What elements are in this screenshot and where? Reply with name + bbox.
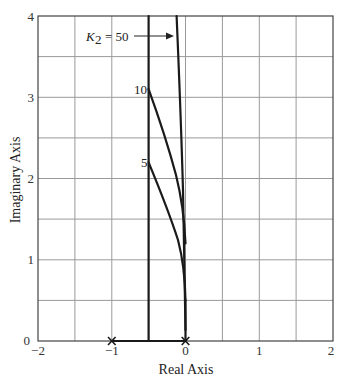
x-tick-2: 2 bbox=[328, 343, 335, 358]
y-tick-labels: 0 1 2 3 4 bbox=[24, 9, 35, 348]
label-k2-10: 10 bbox=[134, 82, 147, 97]
y-tick-0: 0 bbox=[24, 333, 31, 348]
y-tick-1: 1 bbox=[28, 252, 35, 267]
y-tick-4: 4 bbox=[28, 9, 35, 24]
y-tick-2: 2 bbox=[28, 171, 35, 186]
y-axis-label: Imaginary Axis bbox=[8, 137, 23, 224]
k-subscript: 2 bbox=[95, 32, 102, 47]
locus-k2-5 bbox=[149, 162, 186, 300]
x-tick-labels: −2 −1 0 1 2 bbox=[31, 343, 334, 358]
arrow-head-icon bbox=[166, 33, 174, 40]
annotation-k2-50: K 2 = 50 bbox=[85, 29, 174, 47]
x-tick-0: 0 bbox=[182, 343, 189, 358]
locus-k2-50 bbox=[177, 16, 186, 330]
label-k2-5: 5 bbox=[141, 155, 148, 170]
x-tick-neg1: −1 bbox=[105, 343, 119, 358]
x-axis-label: Real Axis bbox=[159, 362, 214, 377]
k-equals-50: = 50 bbox=[105, 29, 129, 44]
x-tick-neg2: −2 bbox=[31, 343, 45, 358]
x-tick-1: 1 bbox=[256, 343, 263, 358]
y-tick-3: 3 bbox=[28, 90, 35, 105]
root-locus-chart: K 2 = 50 10 5 0 1 2 3 4 −2 −1 0 1 2 Real… bbox=[0, 0, 350, 383]
